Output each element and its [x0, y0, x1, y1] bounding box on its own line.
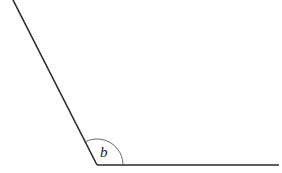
angle-figure: b	[0, 0, 282, 173]
angle-label: b	[100, 144, 108, 160]
left-ray	[13, 0, 97, 165]
angle-diagram: b	[0, 0, 282, 173]
